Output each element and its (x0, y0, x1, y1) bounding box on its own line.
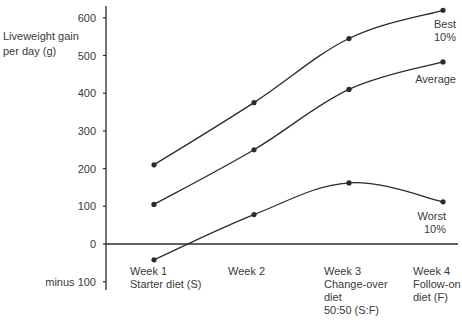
x-axis-labels: Week 1Starter diet (S)Week 2Week 3Change… (130, 265, 461, 316)
y-tick-label: 200 (78, 163, 96, 175)
data-point (440, 8, 445, 13)
series-best-10-: Best10% (151, 8, 456, 168)
data-point (346, 180, 351, 185)
data-point (440, 59, 445, 64)
data-point (440, 199, 445, 204)
series-label: 10% (424, 223, 446, 235)
series-label: Average (415, 73, 456, 85)
data-point (346, 87, 351, 92)
y-tick-label: 0 (90, 238, 96, 250)
x-category-label: Starter diet (S) (130, 278, 202, 290)
x-category-label: Follow-on (413, 278, 461, 290)
x-category-label: Week 1 (130, 265, 167, 277)
y-axis-title-line: Liveweight gain (3, 30, 79, 42)
series-label: Worst (417, 210, 446, 222)
y-tick-label: 100 (78, 200, 96, 212)
y-tick-label: 500 (78, 50, 96, 62)
y-axis-label: Liveweight gainper day (g) (3, 30, 79, 57)
series-average: Average (151, 59, 456, 207)
y-axis-title-line: per day (g) (3, 45, 56, 57)
x-category-label: Week 2 (228, 265, 265, 277)
data-point (346, 36, 351, 41)
data-point (151, 162, 156, 167)
data-point (251, 100, 256, 105)
series-label: 10% (434, 31, 456, 43)
y-tick-label: 300 (78, 125, 96, 137)
y-tick-label: minus 100 (45, 276, 96, 288)
x-category-label: 50:50 (S:F) (324, 304, 379, 316)
data-point (251, 147, 256, 152)
series-label: Best (434, 18, 456, 30)
x-category-label: Change-over (324, 278, 388, 290)
data-point (151, 202, 156, 207)
x-category-label: diet (F) (413, 291, 448, 303)
data-point (251, 212, 256, 217)
x-category-label: diet (324, 291, 342, 303)
data-point (151, 257, 156, 262)
series-worst-10-: Worst10% (151, 180, 446, 262)
series-lines: Best10%AverageWorst10% (151, 8, 456, 263)
x-category-label: Week 4 (413, 265, 450, 277)
x-category-label: Week 3 (324, 265, 361, 277)
y-tick-label: 400 (78, 87, 96, 99)
line-chart: Liveweight gainper day (g) 6005004003002… (0, 0, 462, 323)
y-tick-label: 600 (78, 12, 96, 24)
